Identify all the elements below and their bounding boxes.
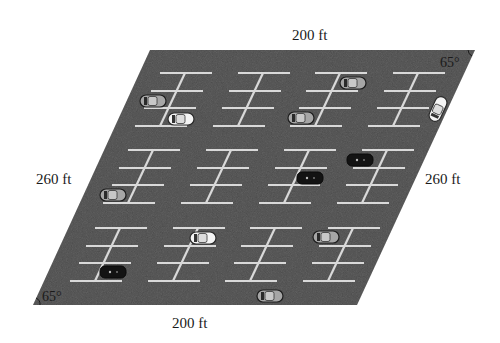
right-side-label: 260 ft <box>425 171 461 187</box>
car-icon <box>190 232 216 244</box>
car-icon <box>168 113 194 125</box>
car-icon <box>288 112 314 124</box>
car-icon <box>297 172 323 184</box>
car-icon <box>313 231 339 243</box>
car-icon <box>100 189 126 201</box>
bottom-side-label: 200 ft <box>172 315 208 331</box>
top-right-angle-label: 65° <box>440 55 460 70</box>
car-icon <box>140 95 166 107</box>
car-icon <box>340 77 366 89</box>
parking-lot-diagram: 200 ft 200 ft 260 ft 260 ft 65° 65° <box>0 0 500 343</box>
parking-lot-surface <box>33 50 475 305</box>
car-icon <box>100 266 126 278</box>
left-side-label: 260 ft <box>36 171 72 187</box>
car-icon <box>347 154 373 166</box>
car-icon <box>257 290 283 302</box>
top-side-label: 200 ft <box>292 27 328 43</box>
bottom-left-angle-label: 65° <box>42 289 62 304</box>
